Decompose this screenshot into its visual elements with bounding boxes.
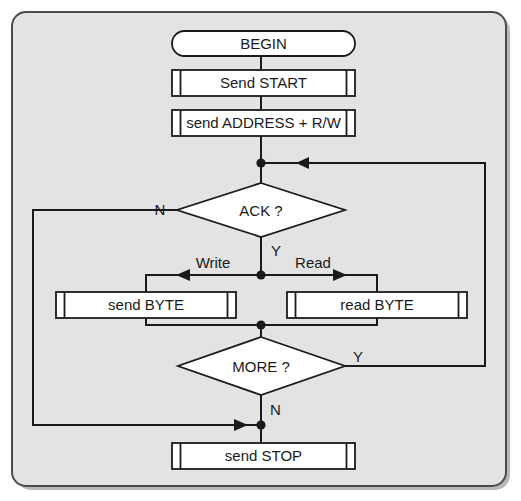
flowchart-canvas: BEGIN Send START send ADDRESS + R/W ACK … [0,0,521,501]
send-start-label: Send START [220,74,307,91]
label-more-yes: Y [353,348,363,365]
send-stop-label: send STOP [225,447,302,464]
label-ack-no: N [155,201,166,218]
node-send-start[interactable]: Send START [172,70,355,96]
label-write: Write [196,254,231,271]
junction-dot-write-read-split [256,270,265,279]
send-address-label: send ADDRESS + R/W [186,114,341,131]
node-begin[interactable]: BEGIN [172,31,355,56]
label-ack-yes: Y [271,242,281,259]
read-byte-label: read BYTE [340,296,413,313]
node-read-byte[interactable]: read BYTE [287,292,467,318]
node-send-address[interactable]: send ADDRESS + R/W [172,110,355,136]
junction-dot-ack-input [256,158,265,167]
begin-label: BEGIN [240,35,287,52]
ack-label: ACK ? [239,202,282,219]
node-send-byte[interactable]: send BYTE [56,292,236,318]
flowchart-svg: BEGIN Send START send ADDRESS + R/W ACK … [0,0,521,501]
label-read: Read [295,254,331,271]
node-send-stop[interactable]: send STOP [172,443,355,469]
send-byte-label: send BYTE [108,296,184,313]
more-label: MORE ? [232,358,290,375]
label-more-no: N [270,401,281,418]
